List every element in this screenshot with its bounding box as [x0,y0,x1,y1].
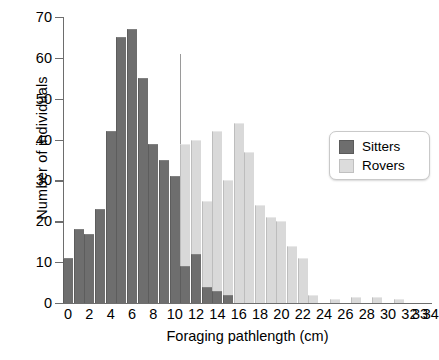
x-tick-label: 0 [64,307,72,322]
y-tick-label: 0 [44,296,52,311]
bar-rovers-31 [394,299,404,303]
bar-sitters-12 [191,254,201,303]
y-tick-label: 30 [36,173,52,188]
bar-rovers-18 [255,205,265,303]
x-tick-label: 16 [231,307,247,322]
x-tick-label: 24 [316,307,332,322]
y-tick [55,303,63,304]
x-tick-label: 30 [380,307,396,322]
bar-sitters-9 [159,160,169,303]
bar-sitters-13 [202,287,212,303]
y-tick [55,180,63,181]
y-tick-label: 50 [36,91,52,106]
x-tick-label: 26 [337,307,353,322]
x-axis-title: Foraging pathlength (cm) [63,328,432,344]
chart-legend[interactable]: Sitters Rovers [329,131,430,180]
legend-swatch-rovers [339,159,354,173]
bar-rovers-16 [234,123,244,303]
x-tick-label: 14 [209,307,225,322]
y-tick-label: 70 [36,10,52,25]
bar-rovers-14 [212,131,222,303]
bar-rovers-20 [276,221,286,303]
legend-label-sitters: Sitters [362,140,400,154]
x-tick-label: 2 [85,307,93,322]
y-tick-label: 60 [36,51,52,66]
bar-rovers-25 [330,299,340,303]
bar-sitters-5 [116,37,126,303]
x-tick-label: 18 [252,307,268,322]
bar-sitters-8 [148,144,158,303]
bar-sitters-0 [63,258,73,303]
bar-sitters-15 [223,295,233,303]
y-tick-label: 20 [36,214,52,229]
legend-item-sitters[interactable]: Sitters [339,139,400,154]
x-tick-label: 4 [107,307,115,322]
legend-swatch-sitters [339,140,354,154]
x-tick-label: 28 [359,307,375,322]
bar-sitters-11 [180,266,190,303]
bar-sitters-10 [170,176,180,303]
legend-label-rovers: Rovers [362,159,405,173]
bar-sitters-6 [127,29,137,303]
y-tick [55,140,63,141]
bar-rovers-27 [351,297,361,303]
x-tick-label: 20 [273,307,289,322]
x-tick-label: 6 [128,307,136,322]
x-tick-label: 22 [295,307,311,322]
bar-sitters-14 [212,291,222,303]
bar-rovers-17 [244,152,254,303]
bar-rovers-29 [372,297,382,303]
y-tick-label: 40 [36,132,52,147]
bar-sitters-2 [84,234,94,303]
y-tick [55,262,63,263]
bar-rovers-23 [308,295,318,303]
bar-sitters-4 [106,131,116,303]
legend-item-rovers[interactable]: Rovers [339,158,405,173]
y-tick [55,58,63,59]
bar-sitters-7 [138,78,148,303]
x-tick-label: 12 [188,307,204,322]
x-axis-line [63,303,432,304]
x-tick-label: 8 [149,307,157,322]
x-tick-label: 34 [423,307,439,322]
y-tick [55,221,63,222]
bar-rovers-22 [298,258,308,303]
x-tick-label: 10 [167,307,183,322]
bar-rovers-15 [223,180,233,303]
bar-rovers-19 [266,217,276,303]
y-tick [55,17,63,18]
y-tick-label: 10 [36,255,52,270]
bar-sitters-3 [95,209,105,303]
bar-rovers-21 [287,246,297,303]
y-tick [55,99,63,100]
bar-sitters-1 [74,229,84,303]
